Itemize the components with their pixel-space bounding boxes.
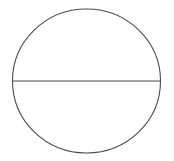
diagram-canvas [0,0,174,161]
circle-diameter-diagram [0,0,174,161]
